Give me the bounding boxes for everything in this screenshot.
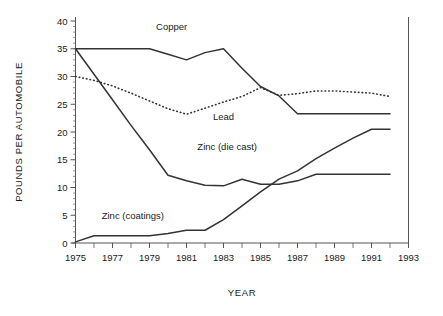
x-tick-label: 1975 [65, 252, 86, 263]
x-tick-label: 1981 [176, 252, 197, 263]
series-label-2: Zinc (die cast) [197, 141, 257, 152]
series-line-0 [76, 49, 391, 114]
y-tick-label: 10 [57, 182, 68, 193]
y-tick-label: 25 [57, 99, 68, 110]
x-tick-label: 1987 [287, 252, 308, 263]
x-tick-label: 1977 [102, 252, 123, 263]
y-tick-label: 30 [57, 71, 68, 82]
y-tick-label: 20 [57, 127, 68, 138]
series-label-1: Lead [213, 111, 234, 122]
x-axis-title: YEAR [228, 287, 256, 298]
y-tick-label: 35 [57, 43, 68, 54]
series-label-0: Copper [156, 21, 187, 32]
series-label-3: Zinc (coatings) [102, 210, 164, 221]
y-axis-title: POUNDS PER AUTOMOBILE [13, 62, 24, 202]
y-tick-label: 40 [57, 16, 68, 27]
line-chart: 0510152025303540 19751977197919811983198… [0, 0, 443, 316]
x-tick-label: 1993 [398, 252, 419, 263]
chart-container: 0510152025303540 19751977197919811983198… [0, 0, 443, 316]
y-tick-label: 0 [62, 238, 67, 249]
x-tick-label: 1989 [324, 252, 345, 263]
series-label-group: CopperLeadZinc (die cast)Zinc (coatings) [102, 21, 257, 221]
x-tick-group [76, 243, 409, 248]
x-tick-label: 1983 [213, 252, 234, 263]
y-tick-label-group: 0510152025303540 [57, 16, 68, 249]
y-tick-label: 15 [57, 154, 68, 165]
x-tick-label: 1979 [139, 252, 160, 263]
x-tick-label-group: 1975197719791981198319851987198919911993 [65, 252, 419, 263]
x-tick-label: 1985 [250, 252, 271, 263]
x-tick-label: 1991 [361, 252, 382, 263]
series-line-1 [76, 77, 391, 115]
y-tick-label: 5 [62, 210, 67, 221]
